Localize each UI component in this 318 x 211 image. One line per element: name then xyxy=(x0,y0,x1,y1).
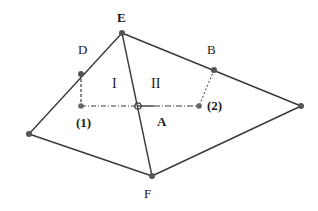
label-e: E xyxy=(117,10,126,25)
point-p1 xyxy=(78,103,84,109)
point-left xyxy=(26,131,32,137)
label-f: F xyxy=(144,186,151,201)
label-a: A xyxy=(157,114,167,129)
point-e xyxy=(119,30,125,36)
edge-e-f xyxy=(122,33,152,176)
label-region-i: I xyxy=(112,76,117,91)
diagram-canvas: E D B F A (1) (2) I II xyxy=(0,0,318,211)
point-f xyxy=(149,173,155,179)
label-p1: (1) xyxy=(76,115,91,130)
label-d: D xyxy=(78,42,87,57)
point-b xyxy=(211,67,217,73)
label-p2: (2) xyxy=(207,98,222,113)
point-p2 xyxy=(196,103,202,109)
edge-f-left xyxy=(29,134,152,176)
edge-right-f xyxy=(152,106,301,176)
label-region-ii: II xyxy=(151,76,161,91)
point-d xyxy=(78,71,84,77)
point-right xyxy=(298,103,304,109)
label-b: B xyxy=(207,42,216,57)
